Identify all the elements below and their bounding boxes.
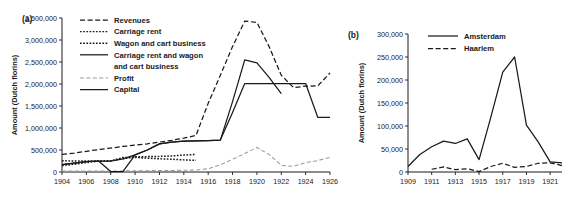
y-tick-label: 250,000: [377, 53, 403, 62]
x-tick-label: 1904: [54, 177, 70, 186]
x-tick-label: 1926: [322, 177, 338, 186]
panel-tag: (b): [348, 30, 359, 40]
series-line-profit: [62, 148, 330, 172]
x-tick-label: 1913: [447, 177, 463, 186]
chart-panel-a: 0500,0001,000,0001,500,0002,000,0002,500…: [0, 0, 340, 201]
y-axis-title: Amount (Dutch florins): [10, 54, 19, 135]
series-line-capital: [62, 84, 330, 172]
legend-label: Amsterdam: [464, 32, 506, 41]
x-tick-label: 1919: [518, 177, 534, 186]
figure-container: 0500,0001,000,0001,500,0002,000,0002,500…: [0, 0, 570, 201]
x-tick-label: 1918: [225, 177, 241, 186]
legend-label: Profit: [114, 74, 134, 83]
y-tick-label: 3,000,000: [25, 36, 57, 45]
x-tick-label: 1910: [127, 177, 143, 186]
y-tick-label: 2,000,000: [25, 80, 57, 89]
y-tick-label: 1,000,000: [25, 124, 57, 133]
x-tick-label: 1914: [176, 177, 192, 186]
y-tick-label: 300,000: [377, 30, 403, 39]
x-tick-label: 1916: [200, 177, 216, 186]
y-tick-label: 100,000: [377, 122, 403, 131]
legend-label: Carriage rent: [114, 27, 162, 36]
panel-a-svg: 0500,0001,000,0001,500,0002,000,0002,500…: [0, 0, 340, 201]
y-tick-label: 0: [53, 168, 57, 177]
x-tick-label: 1909: [400, 177, 416, 186]
y-tick-label: 50,000: [381, 145, 403, 154]
x-tick-label: 1922: [273, 177, 289, 186]
legend-label: Capital: [114, 85, 139, 94]
chart-panel-b: 050,000100,000150,000200,000250,000300,0…: [340, 0, 570, 201]
series-line-amsterdam: [408, 57, 562, 166]
x-tick-label: 1917: [495, 177, 511, 186]
y-tick-label: 500,000: [31, 146, 57, 155]
legend-label: Revenues: [114, 16, 150, 25]
y-tick-label: 1,500,000: [25, 102, 57, 111]
x-tick-label: 1921: [542, 177, 558, 186]
y-tick-label: 200,000: [377, 76, 403, 85]
x-tick-label: 1915: [471, 177, 487, 186]
y-tick-label: 2,500,000: [25, 58, 57, 67]
x-tick-label: 1924: [298, 177, 314, 186]
x-tick-label: 1920: [249, 177, 265, 186]
x-tick-label: 1912: [151, 177, 167, 186]
legend-label: Haarlem: [464, 44, 494, 53]
legend-label: and cart business: [114, 62, 179, 71]
legend-label: Carriage rent and wagon: [114, 51, 203, 60]
legend-label: Wagon and cart business: [114, 39, 206, 48]
panel-b-svg: 050,000100,000150,000200,000250,000300,0…: [340, 0, 570, 201]
y-tick-label: 0: [399, 168, 403, 177]
x-tick-label: 1906: [78, 177, 94, 186]
y-axis-title: Amount (Dutch florins): [357, 62, 366, 143]
y-tick-label: 150,000: [377, 99, 403, 108]
x-tick-label: 1911: [424, 177, 439, 186]
panel-tag: (a): [22, 14, 33, 24]
series-line-haarlem: [432, 163, 562, 172]
series-line-carriage-rent-and-wagon-and-cart-business: [62, 60, 281, 165]
x-tick-label: 1908: [103, 177, 119, 186]
